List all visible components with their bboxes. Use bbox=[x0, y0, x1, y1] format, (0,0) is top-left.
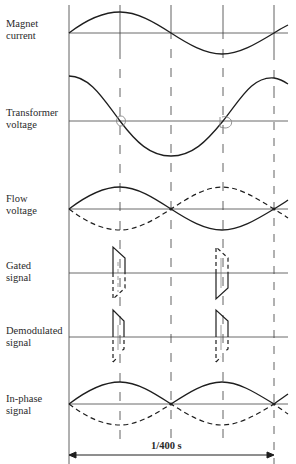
baselines bbox=[69, 33, 288, 404]
gated-pulse-1-lower bbox=[113, 273, 125, 299]
crossing-dot bbox=[169, 402, 172, 405]
in-phase-dashed-trace bbox=[69, 404, 288, 425]
demod-pulse-2-lower bbox=[216, 340, 228, 362]
arrow-right-icon bbox=[267, 452, 274, 458]
demod-pulse-1-lower bbox=[113, 340, 124, 362]
in-phase-solid-trace bbox=[69, 382, 288, 404]
demodulated-signal-pulses bbox=[113, 310, 228, 362]
crossing-dot bbox=[272, 207, 275, 210]
gate-markers bbox=[117, 116, 232, 128]
demod-pulse-2-upper bbox=[216, 310, 228, 337]
gated-pulse-1-upper bbox=[113, 247, 125, 273]
gated-pulse-2-upper bbox=[216, 247, 228, 273]
vertical-guides bbox=[69, 5, 274, 464]
timing-diagram bbox=[0, 0, 296, 464]
transformer-voltage-trace bbox=[69, 76, 288, 156]
flow-voltage-dashed-trace bbox=[69, 187, 288, 230]
flow-voltage-solid-trace bbox=[69, 187, 288, 230]
arrow-left-icon bbox=[69, 452, 76, 458]
crossing-dot bbox=[169, 207, 172, 210]
period-label: 1/400 s bbox=[151, 440, 182, 451]
gated-pulse-2-lower bbox=[216, 273, 228, 299]
crossing-dot bbox=[272, 402, 275, 405]
demod-pulse-1-upper bbox=[113, 310, 124, 337]
period-arrow bbox=[69, 452, 274, 458]
